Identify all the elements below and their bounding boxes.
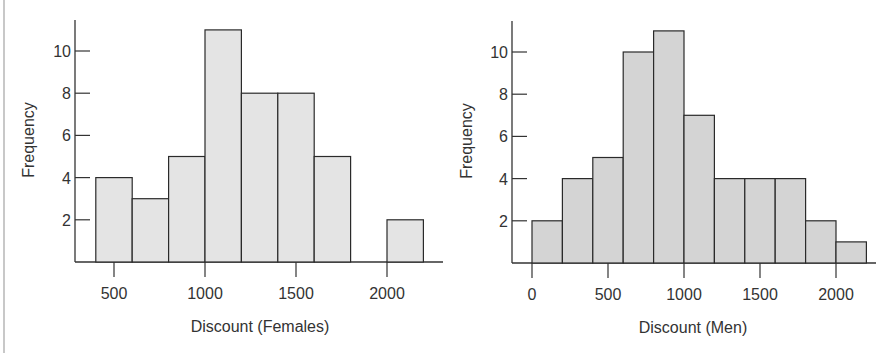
y-tick-label: 10 xyxy=(490,44,508,61)
y-tick-label: 6 xyxy=(499,128,508,145)
histogram-bar xyxy=(532,221,562,263)
histogram-bar xyxy=(775,179,805,263)
y-tick-label: 4 xyxy=(499,171,508,188)
histogram-bar xyxy=(836,242,866,263)
histogram-bar xyxy=(806,221,836,263)
histogram-figure: 246810500100015002000Discount (Females)F… xyxy=(0,0,889,353)
histogram-bars xyxy=(532,31,866,263)
histogram-bar xyxy=(745,179,775,263)
x-tick-label: 2000 xyxy=(818,286,854,303)
histogram-bar xyxy=(562,179,592,263)
histogram-bar xyxy=(684,115,714,263)
x-axis-label: Discount (Men) xyxy=(639,319,747,336)
histogram-bar xyxy=(714,179,744,263)
x-tick-label: 1000 xyxy=(666,286,702,303)
x-tick-label: 1500 xyxy=(742,286,778,303)
histogram-bar xyxy=(623,52,653,263)
y-tick-label: 2 xyxy=(499,213,508,230)
histogram-men: 2468100500100015002000Discount (Men)Freq… xyxy=(0,0,889,353)
y-tick-label: 8 xyxy=(499,86,508,103)
histogram-bar xyxy=(654,31,684,263)
histogram-bar xyxy=(593,158,623,264)
y-axis-label: Frequency xyxy=(458,103,475,179)
x-tick-label: 0 xyxy=(528,286,537,303)
x-tick-label: 500 xyxy=(595,286,622,303)
